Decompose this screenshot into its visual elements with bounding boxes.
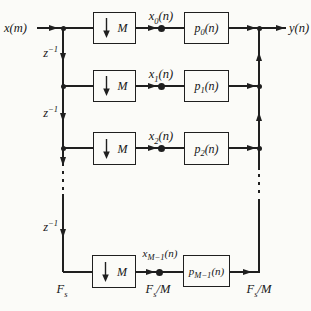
filter-3-sub: M−1: [194, 270, 211, 280]
arrowhead-right-icon: [247, 25, 256, 31]
sample-rate-output-label: Fs/M: [237, 282, 281, 296]
output-signal-label: y(n): [289, 21, 309, 35]
sample-rate-decimated-label: Fs/M: [136, 282, 180, 296]
arrowhead-right-icon: [49, 25, 58, 31]
arrowhead-down-icon: [60, 53, 66, 62]
delay-label-3: z−1: [28, 220, 58, 234]
signal-3-sub: M−1: [147, 252, 164, 262]
arrowhead-right-icon: [276, 25, 285, 31]
filter-box-1: p1(n): [184, 70, 229, 102]
downsample-arrow-icon: [102, 139, 111, 159]
filter-label-2: p2(n): [194, 143, 218, 155]
filter-label-0: p0(n): [194, 22, 218, 34]
filter-box-3: pM−1(n): [183, 255, 230, 287]
rate-in-sub: s: [64, 289, 67, 299]
arrowhead-down-icon: [60, 113, 66, 122]
signal-label-2: x2(n): [133, 129, 189, 143]
wire-left-bus-ellipsis: [62, 171, 64, 194]
downsampler-box-2: M: [93, 132, 136, 165]
downsampler-box-1: M: [93, 70, 136, 102]
downsample-arrow-icon: [102, 18, 111, 38]
filter-box-2: p2(n): [184, 132, 229, 165]
signal-node-dot: [158, 145, 165, 152]
arrowhead-up-icon: [256, 112, 262, 121]
filter-1-suffix: (n): [205, 79, 219, 93]
arrowhead-right-icon: [243, 269, 252, 275]
filter-box-0: p0(n): [184, 12, 229, 44]
signal-2-suffix: (n): [159, 129, 174, 143]
arrowhead-right-icon: [247, 83, 256, 89]
wire-right-bus-ellipsis: [258, 174, 260, 198]
filter-0-suffix: (n): [205, 21, 219, 35]
arrowhead-up-icon: [256, 52, 262, 61]
filter-label-3: pM−1(n): [189, 266, 224, 277]
signal-label-1: x1(n): [133, 67, 189, 81]
downsampler-box-3: M: [92, 255, 136, 288]
output-label-suffix: (n): [295, 21, 310, 35]
input-signal-label: x(m): [4, 21, 27, 35]
wire: [63, 147, 94, 149]
signal-3-suffix: (n): [165, 247, 178, 259]
arrowhead-down-icon: [60, 157, 66, 166]
wire-right-bus-lower: [258, 199, 260, 272]
downsample-factor-label: M: [118, 22, 128, 34]
wire: [63, 85, 94, 87]
downsampler-box-0: M: [93, 12, 136, 44]
downsample-factor-label: M: [118, 143, 128, 155]
signal-label-0: x0(n): [133, 9, 189, 23]
downsample-factor-label: M: [118, 80, 128, 92]
sample-rate-input-label: Fs: [46, 282, 78, 296]
downsample-factor-label: M: [117, 266, 127, 278]
delay-3-exp: −1: [48, 218, 58, 228]
arrowhead-right-icon: [247, 145, 256, 151]
downsample-arrow-icon: [102, 76, 111, 96]
rate-in-base: F: [57, 282, 65, 296]
filter-3-suffix: (n): [211, 265, 224, 277]
downsample-arrow-icon: [101, 262, 110, 282]
polyphase-decimator-diagram: x(m) z−1 z−1 z−1 y(n) M x0(n) p0(n) M: [0, 0, 311, 311]
rate-mid-suffix: /M: [157, 282, 171, 296]
wire: [63, 27, 94, 29]
delay-label-1: z−1: [28, 46, 58, 60]
wire: [63, 271, 93, 273]
signal-1-suffix: (n): [159, 67, 174, 81]
delay-2-exp: −1: [48, 104, 58, 114]
filter-label-1: p1(n): [194, 80, 218, 92]
arrowhead-right-icon: [148, 83, 157, 89]
rate-out-suffix: /M: [258, 282, 272, 296]
delay-label-2: z−1: [28, 106, 58, 120]
arrowhead-right-icon: [146, 269, 155, 275]
signal-node-dot: [158, 25, 165, 32]
filter-2-suffix: (n): [205, 142, 219, 156]
signal-node-dot: [158, 83, 165, 90]
arrowhead-down-icon: [60, 229, 66, 238]
signal-node-dot: [156, 269, 163, 276]
signal-0-suffix: (n): [159, 9, 174, 23]
input-label-suffix: (m): [10, 21, 27, 35]
delay-1-exp: −1: [48, 44, 58, 54]
